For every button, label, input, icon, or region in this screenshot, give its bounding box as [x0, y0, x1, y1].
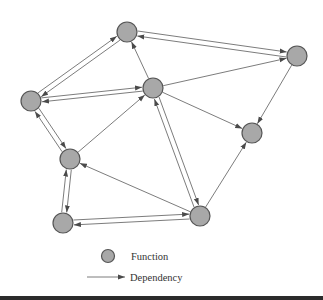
legend-function-label: Function [131, 251, 169, 262]
dependency-edge-f-to-c [78, 95, 145, 152]
dependency-edge-h-to-c [154, 99, 194, 207]
dependency-edge-f-to-g [67, 170, 72, 213]
function-node-e [242, 123, 262, 143]
function-node-f [60, 149, 80, 169]
legend-function-icon [102, 250, 115, 263]
dependency-edge-a-to-d [138, 31, 287, 52]
function-node-c [143, 78, 163, 98]
dependency-edge-c-to-d [163, 58, 286, 85]
dependency-edge-h-to-f [80, 163, 190, 212]
dependency-edge-a-to-b [41, 40, 120, 96]
dependency-edge-h-to-e [206, 142, 247, 207]
dependency-edge-b-to-a [38, 36, 117, 93]
dependency-edge-d-to-a [137, 36, 286, 57]
dependency-diagram: Function Dependency [0, 0, 323, 300]
dependency-edge-b-to-f [39, 108, 66, 148]
dependency-edge-g-to-h [73, 214, 189, 220]
function-node-h [190, 206, 210, 226]
dependency-edge-d-to-e [257, 65, 291, 124]
dependency-edge-f-to-b [35, 111, 62, 151]
dependency-edge-c-to-h [159, 97, 199, 205]
legend-dependency-label: Dependency [130, 272, 183, 283]
dependency-edge-g-to-f [62, 170, 67, 213]
dependency-edge-h-to-g [74, 219, 190, 225]
bottom-bar [0, 296, 323, 300]
function-node-g [53, 213, 73, 233]
function-node-a [117, 22, 137, 42]
function-node-d [287, 46, 307, 66]
dependency-edge-c-to-a [132, 42, 149, 79]
function-node-b [21, 91, 41, 111]
dependency-edge-c-to-e [163, 92, 243, 128]
legend: Function Dependency [87, 250, 183, 284]
